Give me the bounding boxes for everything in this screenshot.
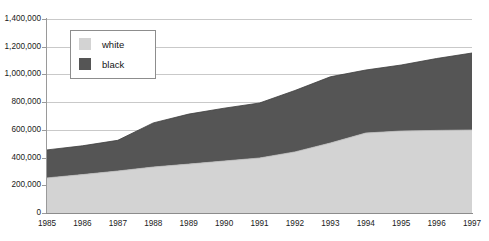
x-axis-tick-label: 1995 — [381, 219, 421, 229]
x-axis-tick-label: 1987 — [98, 219, 138, 229]
y-axis-tick-label: 200,000 — [0, 180, 41, 189]
y-axis-tick — [42, 158, 46, 159]
y-axis-tick — [42, 213, 46, 214]
legend: white black — [70, 30, 156, 79]
legend-swatch-black-icon — [78, 57, 92, 71]
x-axis-tick-label: 1997 — [452, 219, 489, 229]
y-axis-tick-label: 1,000,000 — [0, 69, 41, 78]
y-axis-labels: 0200,000400,000600,000800,0001,000,0001,… — [0, 0, 41, 241]
x-axis-tick-label: 1988 — [133, 219, 173, 229]
x-axis-tick-label: 1991 — [240, 219, 280, 229]
y-axis-line — [46, 18, 47, 214]
x-axis-tick-label: 1993 — [310, 219, 350, 229]
x-axis-tick-label: 1986 — [62, 219, 102, 229]
y-axis-tick — [42, 102, 46, 103]
y-axis-tick-label: 0 — [0, 208, 41, 217]
x-axis-labels: 1985198619871988198919901991199219931994… — [47, 219, 472, 233]
stacked-area-chart: 0200,000400,000600,000800,0001,000,0001,… — [0, 0, 489, 241]
y-axis-tick-label: 1,400,000 — [0, 14, 41, 23]
x-axis-line — [46, 213, 473, 214]
y-axis-tick-label: 1,200,000 — [0, 42, 41, 51]
x-axis-tick-label: 1994 — [346, 219, 386, 229]
y-axis-tick — [42, 130, 46, 131]
y-axis-tick-label: 400,000 — [0, 153, 41, 162]
y-axis-tick — [42, 47, 46, 48]
x-axis-tick-label: 1992 — [275, 219, 315, 229]
x-axis-tick-label: 1989 — [169, 219, 209, 229]
legend-swatch-white-icon — [78, 37, 92, 51]
y-axis-tick — [42, 19, 46, 20]
y-axis-tick-label: 600,000 — [0, 125, 41, 134]
legend-item-black: black — [78, 57, 124, 71]
y-axis-tick — [42, 185, 46, 186]
legend-label-white: white — [102, 39, 124, 50]
y-axis-tick — [42, 74, 46, 75]
legend-item-white: white — [78, 37, 124, 51]
x-axis-tick-label: 1985 — [27, 219, 67, 229]
x-axis-tick-label: 1996 — [417, 219, 457, 229]
x-axis-tick-label: 1990 — [204, 219, 244, 229]
legend-label-black: black — [102, 59, 124, 70]
y-axis-tick-label: 800,000 — [0, 97, 41, 106]
